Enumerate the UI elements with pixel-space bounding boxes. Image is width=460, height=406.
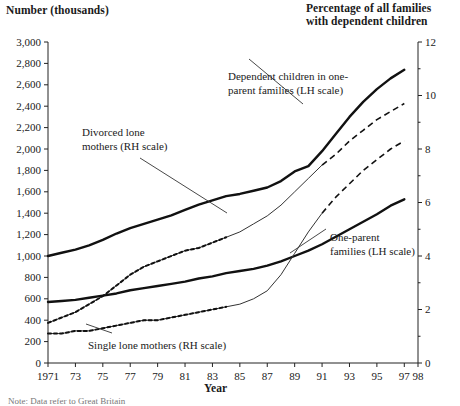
chart-footnote: Note: Data refer to Great Britain [8, 396, 125, 406]
left-axis-tick-label: 200 [0, 336, 41, 347]
x-axis-title: Year [204, 382, 227, 394]
left-axis-tick-label: 2,600 [0, 79, 41, 90]
annotation-single-lone-mothers: Single lone mothers (RH scale) [88, 339, 226, 353]
series-line-dotted-early [48, 307, 226, 334]
right-axis-tick-label: 10 [425, 90, 436, 101]
annotation-dependent-children: Dependent children in one- parent famili… [228, 70, 348, 97]
left-axis-tick-label: 2,400 [0, 101, 41, 112]
left-axis-tick-label: 1,600 [0, 186, 41, 197]
data-series [48, 70, 404, 334]
right-axis-tick-label: 6 [425, 197, 431, 208]
annotation-dependent-children-line1: Dependent children in one- [228, 70, 348, 84]
left-axis-tick-label: 400 [0, 315, 41, 326]
annotation-one-parent-line1: One-parent [330, 231, 415, 245]
annotation-dependent-children-line2: parent families (LH scale) [228, 84, 348, 98]
left-axis-tick-label: 800 [0, 272, 41, 283]
annotation-divorced-line1: Divorced lone [82, 126, 168, 140]
left-axis-tick-label: 2,800 [0, 58, 41, 69]
x-axis-tick-label: 98 [398, 371, 438, 382]
left-axis-tick-label: 600 [0, 293, 41, 304]
left-axis-tick-label: 3,000 [0, 37, 41, 48]
left-axis-tick-label: 1,000 [0, 251, 41, 262]
left-axis-tick-label: 0 [0, 358, 41, 369]
left-axis-tick-label: 1,400 [0, 208, 41, 219]
series-line-thin [48, 165, 322, 323]
right-axis-tick-label: 0 [425, 358, 431, 369]
left-axis-tick-label: 2,000 [0, 144, 41, 155]
right-axis-tick-label: 12 [425, 37, 436, 48]
annotation-one-parent-line2: families (LH scale) [330, 245, 415, 259]
left-axis-tick-label: 1,200 [0, 229, 41, 240]
annotation-divorced-lone-mothers: Divorced lone mothers (RH scale) [82, 126, 168, 153]
left-axis-tick-label: 1,800 [0, 165, 41, 176]
left-axis-tick-label: 2,200 [0, 122, 41, 133]
leader-line-divorced [140, 158, 227, 213]
series-line-dashed [322, 141, 404, 213]
right-axis-tick-label: 2 [425, 304, 431, 315]
right-axis-tick-label: 4 [425, 251, 431, 262]
annotation-one-parent-families: One-parent families (LH scale) [330, 231, 415, 258]
annotation-divorced-line2: mothers (RH scale) [82, 140, 168, 154]
right-axis-tick-label: 8 [425, 144, 431, 155]
